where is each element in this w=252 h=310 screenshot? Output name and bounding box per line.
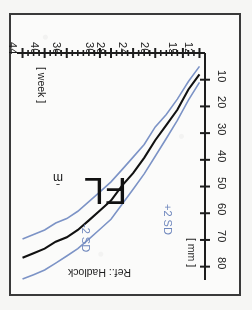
y-tick-label: 20 (216, 96, 227, 109)
y-tick-label: 30 (216, 123, 227, 136)
y-axis-unit-label: [ mm ] (187, 238, 198, 267)
x-tick-label: 28 (95, 42, 106, 55)
y-tick-label: 10 (216, 70, 227, 83)
x-tick-label: 36 (51, 42, 62, 55)
x-tick-label: 12 (183, 42, 194, 55)
y-tick-label: 80 (216, 257, 227, 270)
x-tick-label: 24 (117, 42, 128, 55)
plot-area: 121520242830364044 1020304050607080 [ we… (11, 15, 239, 294)
chart-frame: 121520242830364044 1020304050607080 [ we… (9, 13, 241, 296)
upper-sd-label: +2 SD (162, 204, 173, 235)
x-tick-label: 30 (84, 42, 95, 55)
y-tick-label: 40 (216, 150, 227, 163)
chart-svg (11, 15, 239, 294)
measurement-label: FL (83, 172, 127, 208)
x-tick-label: 15 (167, 42, 178, 55)
y-tick-label: 60 (216, 203, 227, 216)
y-tick-label: 50 (216, 177, 227, 190)
x-tick-label: 40 (29, 42, 40, 55)
x-tick-label: 20 (139, 42, 150, 55)
rotated-chart-container: 121520242830364044 1020304050607080 [ we… (11, 15, 239, 294)
mean-curve-label: m̄ (53, 172, 63, 184)
x-tick-label: 44 (7, 42, 18, 55)
reference-label: Ref.: Hadlock (68, 268, 131, 279)
x-axis-unit-label: [ week ] (37, 67, 48, 103)
y-tick-label: 70 (216, 230, 227, 243)
lower-sd-label: -2 SD (80, 224, 91, 252)
chart-screenshot: 121520242830364044 1020304050607080 [ we… (0, 0, 252, 310)
